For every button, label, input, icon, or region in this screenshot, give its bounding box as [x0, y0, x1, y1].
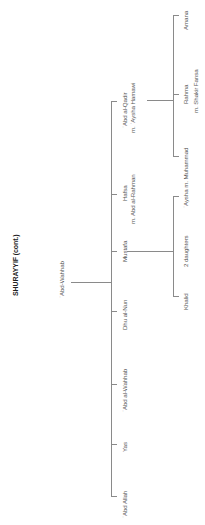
tick-yas [111, 444, 117, 445]
tick-mustafa [111, 251, 117, 252]
person-abd-al-qadir: ʿAbd al-Qadir [121, 93, 128, 129]
abd-al-qadir-connector [147, 100, 173, 101]
tick-abd-al-qadir [111, 101, 117, 102]
tick-hafsa [111, 194, 117, 195]
spouse-hafsa: m. Abd al-Rahman [129, 174, 136, 224]
mustafa-connector [127, 251, 173, 252]
tick-rahma [173, 94, 179, 95]
person-abd-al-wahhab: ʿAbd al-Wahhab [121, 369, 128, 412]
diagram-title: SHURAYYIF (cont.) [12, 235, 19, 296]
spouse-rahma: m. Shakir Fansa [192, 69, 199, 113]
tick-dhu-al-nun [111, 311, 117, 312]
sibling-line [111, 101, 112, 496]
person-rahma: Rahma [182, 85, 189, 104]
person-yas: Yas [121, 442, 128, 452]
person-amana: Amana [182, 11, 189, 30]
abd-al-qadir-children-line [173, 15, 174, 156]
tick-khalid [173, 296, 179, 297]
person-khalid: Khalid [182, 293, 189, 310]
person-hafsa: Hafsa [121, 185, 128, 201]
person-abd-allah: ʿAbd Allah [121, 491, 128, 518]
mustafa-children-line [173, 196, 174, 296]
root-connector [71, 282, 111, 283]
tick-abd-al-wahhab [111, 384, 117, 385]
person-2-daughters: 2 daughters [182, 235, 189, 267]
root-person-name: ʿAbd-Wahhab [58, 261, 65, 298]
spouse-abd-al-qadir: m. ʿAysha Hamawi [129, 83, 136, 133]
tick-amana [173, 15, 179, 16]
tick-abd-allah [111, 496, 117, 497]
tick-aysha-upper [173, 156, 179, 157]
person-aysha-m-muhammad: ʿAysha m. Muhammad [182, 148, 189, 208]
person-dhu-al-nun: Dhu al-Nun [121, 300, 128, 330]
tick-aysha [173, 196, 179, 197]
